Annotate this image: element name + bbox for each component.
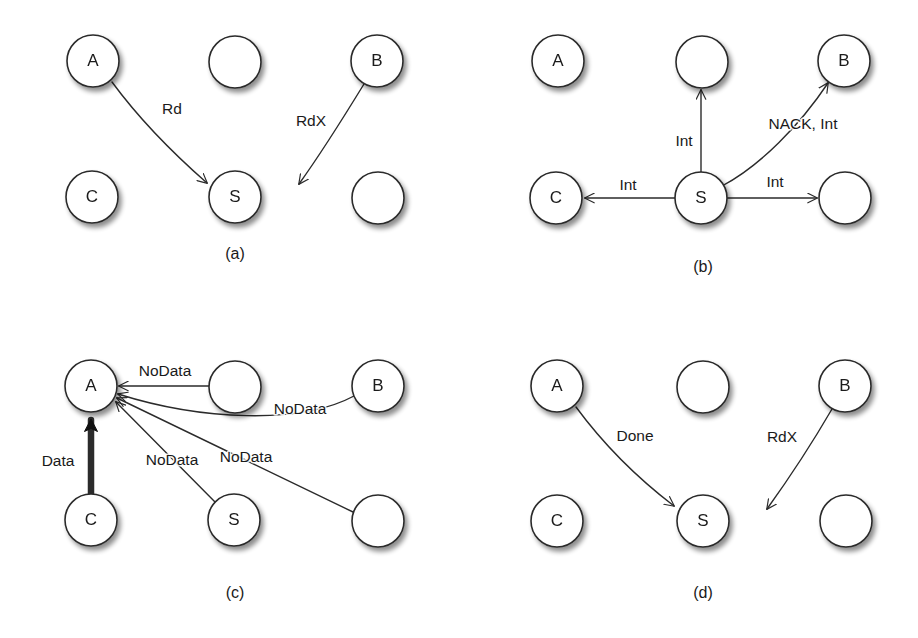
node-label-S: S (697, 511, 708, 530)
node-A: A (65, 360, 117, 412)
edge-label-edge-s-to-c: Int (619, 176, 637, 193)
edge-a-to-s (576, 407, 674, 506)
edge-label-edge-bottom-right-to-a: NoData (220, 448, 273, 465)
edge-a-to-s (112, 82, 207, 183)
node-label-S: S (695, 188, 706, 207)
edge-b-to-empty (299, 84, 364, 184)
node-A: A (532, 35, 584, 87)
node-label-A: A (552, 51, 564, 70)
node-label-B: B (838, 51, 849, 70)
edge-label-edge-b-to-empty: RdX (767, 428, 798, 445)
node-C: C (66, 171, 118, 223)
node-circle-bottom-right (820, 495, 872, 547)
edge-label-edge-s-to-b: NACK, Int (769, 115, 839, 132)
node-label-C: C (551, 511, 563, 530)
panel-caption-panel-b: (b) (693, 258, 713, 275)
panel-caption-panel-a: (a) (225, 245, 245, 262)
edge-label-edge-a-to-s: Rd (162, 100, 182, 117)
node-label-B: B (372, 376, 383, 395)
node-circle-bottom-right (819, 172, 871, 224)
node-S: S (677, 495, 729, 547)
node-circle-top-middle (209, 36, 261, 88)
node-A: A (531, 360, 583, 412)
node-circle-top-middle (209, 361, 261, 413)
node-circle-bottom-right (352, 172, 404, 224)
panel-caption-panel-c: (c) (226, 584, 245, 601)
node-circle-top-middle (677, 361, 729, 413)
figure-root: ABCSRdRdRdXRdX(a)ABCSIntIntNACK, IntNACK… (0, 0, 918, 638)
panel-d: ABCSDoneDoneRdXRdX(d) (531, 360, 872, 601)
node-label-S: S (228, 510, 239, 529)
node-bottom-right (819, 172, 871, 224)
node-label-S: S (229, 187, 240, 206)
node-S: S (209, 171, 261, 223)
node-top-middle (209, 36, 261, 88)
node-C: C (530, 172, 582, 224)
node-B: B (352, 360, 404, 412)
node-B: B (351, 35, 403, 87)
node-B: B (818, 35, 870, 87)
node-C: C (65, 494, 117, 546)
edge-b-to-empty (767, 409, 832, 509)
panel-b: ABCSIntIntNACK, IntNACK, IntIntIntIntInt… (530, 35, 871, 275)
node-label-B: B (839, 376, 850, 395)
node-S: S (208, 494, 260, 546)
edge-s-to-b (722, 83, 828, 186)
node-label-C: C (85, 510, 97, 529)
node-B: B (819, 360, 871, 412)
edge-label-edge-s-to-a: NoData (146, 451, 199, 468)
node-label-C: C (86, 187, 98, 206)
panel-caption-panel-d: (d) (693, 584, 713, 601)
node-label-A: A (87, 51, 99, 70)
panel-a: ABCSRdRdRdXRdX(a) (66, 35, 404, 262)
panel-c: ABCSNoDataNoDataNoDataNoDataNoDataNoData… (42, 360, 404, 601)
edge-label-edge-b-to-a: NoData (274, 400, 327, 417)
node-A: A (67, 35, 119, 87)
diagram-canvas: ABCSRdRdRdXRdX(a)ABCSIntIntNACK, IntNACK… (0, 0, 918, 638)
edge-label-edge-b-to-empty: RdX (296, 112, 327, 129)
node-top-middle (676, 36, 728, 88)
node-bottom-right (820, 495, 872, 547)
node-label-A: A (85, 376, 97, 395)
node-bottom-right (352, 172, 404, 224)
node-S: S (675, 172, 727, 224)
node-C: C (531, 495, 583, 547)
edge-label-edge-c-to-a-data: Data (42, 452, 75, 469)
edge-label-edge-a-to-s: Done (616, 427, 653, 444)
node-label-A: A (551, 376, 563, 395)
edge-label-edge-s-to-bottom-right: Int (766, 173, 784, 190)
node-top-middle (209, 361, 261, 413)
edge-label-edge-s-to-top-middle: Int (675, 132, 693, 149)
edge-label-edge-top-middle-to-a: NoData (139, 362, 192, 379)
node-label-B: B (371, 51, 382, 70)
node-circle-top-middle (676, 36, 728, 88)
node-circle-bottom-right (352, 495, 404, 547)
node-label-C: C (550, 188, 562, 207)
node-top-middle (677, 361, 729, 413)
node-bottom-right (352, 495, 404, 547)
